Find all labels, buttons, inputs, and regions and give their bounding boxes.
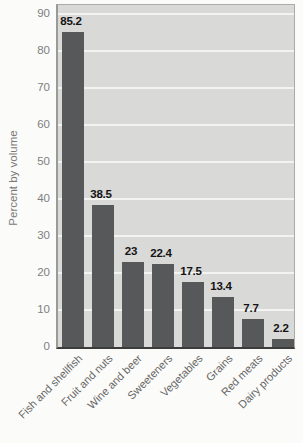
bar-dairy-products — [272, 339, 294, 347]
y-tick-label-50: 50 — [16, 154, 50, 168]
y-tick-label-0: 0 — [16, 339, 50, 353]
bar-value-label-dairy-products: 2.2 — [255, 322, 303, 334]
y-tick-label-60: 60 — [16, 117, 50, 131]
bar-chart-figure: Percent by volume 010203040506070809085.… — [0, 0, 303, 443]
y-axis-title: Percent by volume — [7, 130, 19, 225]
gridline-70 — [58, 87, 294, 89]
y-tick-label-20: 20 — [16, 265, 50, 279]
bar-value-label-vegetables: 17.5 — [165, 265, 217, 277]
bar-fruit-and-nuts — [92, 205, 114, 347]
bar-value-label-fruit-and-nuts: 38.5 — [75, 188, 127, 200]
gridline-60 — [58, 124, 294, 126]
y-tick-label-80: 80 — [16, 43, 50, 57]
x-category-label-dairy-products: Dairy products — [236, 352, 295, 411]
bar-wine-and-beer — [122, 262, 144, 347]
y-tick-label-10: 10 — [16, 302, 50, 316]
y-tick-label-40: 40 — [16, 191, 50, 205]
bar-value-label-fish-and-shellfish: 85.2 — [45, 15, 97, 27]
bar-value-label-red-meats: 7.7 — [225, 302, 277, 314]
bar-value-label-grains: 13.4 — [195, 280, 247, 292]
plot-area — [56, 4, 295, 349]
y-tick-label-30: 30 — [16, 228, 50, 242]
gridline-80 — [58, 50, 294, 52]
bar-value-label-sweeteners: 22.4 — [135, 247, 187, 259]
y-tick-label-70: 70 — [16, 80, 50, 94]
gridline-50 — [58, 161, 294, 163]
